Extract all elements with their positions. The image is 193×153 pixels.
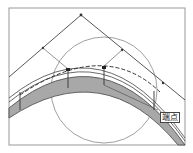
- arc-band: [9, 76, 185, 145]
- grip-1[interactable]: [66, 68, 70, 71]
- connector-right: [104, 50, 122, 66]
- snap-tooltip: 端点: [160, 112, 180, 123]
- apex-node: [80, 14, 83, 17]
- node-right-lower: [162, 82, 164, 84]
- cad-canvas[interactable]: [0, 0, 193, 153]
- grip-2[interactable]: [102, 66, 106, 69]
- connector-left: [43, 48, 68, 69]
